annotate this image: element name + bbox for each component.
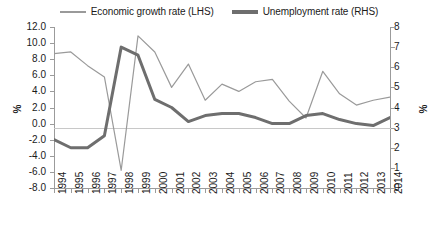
x-axis-tick-mark [289, 189, 290, 193]
x-axis-tick-mark [256, 189, 257, 193]
y-axis-left-tick-label: -8.0 [12, 183, 46, 193]
y-axis-right-tick-label: 2 [394, 143, 414, 153]
y-axis-right-tick-label: 5 [394, 82, 414, 92]
y-axis-right-tick-label: 6 [394, 62, 414, 72]
x-axis-tick-mark [340, 189, 341, 193]
x-axis-tick-label: 2014 [394, 160, 404, 194]
x-axis-tick-mark [222, 189, 223, 193]
x-axis-tick-mark [54, 189, 55, 193]
legend-entry-unemployment-rate: Unemployment rate (RHS) [232, 6, 379, 17]
legend-label-unemployment-rate: Unemployment rate (RHS) [263, 6, 379, 17]
x-axis-tick-mark [205, 189, 206, 193]
y-axis-left-tick-label: 12.0 [12, 22, 46, 32]
y-axis-right-tick-mark [391, 87, 395, 88]
x-axis-tick-mark [373, 189, 374, 193]
x-axis-tick-mark [356, 189, 357, 193]
series-line-unemployment-rate [54, 47, 390, 148]
chart-legend: Economic growth rate (LHS) Unemployment … [0, 6, 438, 17]
x-axis-tick-mark [88, 189, 89, 193]
legend-swatch-line-icon [232, 10, 258, 14]
x-axis-tick-mark [188, 189, 189, 193]
x-axis-tick-mark [323, 189, 324, 193]
plot-area [54, 27, 390, 188]
y-axis-left-tick-label: 6.0 [12, 70, 46, 80]
x-axis-tick-mark [138, 189, 139, 193]
y-axis-right-tick-label: 8 [394, 22, 414, 32]
x-axis-tick-mark [306, 189, 307, 193]
legend-swatch-line-icon [60, 11, 86, 13]
y-axis-right-tick-mark [391, 128, 395, 129]
y-axis-right-tick-label: 7 [394, 42, 414, 52]
y-axis-right-tick-label: 3 [394, 123, 414, 133]
y-axis-left-tick-label: 8.0 [12, 54, 46, 64]
y-axis-right-tick-mark [391, 67, 395, 68]
economic-indicators-chart: Economic growth rate (LHS) Unemployment … [0, 0, 438, 236]
y-axis-left-tick-label: 2.0 [12, 103, 46, 113]
y-axis-right-tick-mark [391, 27, 395, 28]
legend-entry-economic-growth-rate: Economic growth rate (LHS) [60, 6, 214, 17]
y-axis-left-tick-label: 4.0 [12, 86, 46, 96]
y-axis-left-tick-label: 10.0 [12, 38, 46, 48]
x-axis-tick-mark [104, 189, 105, 193]
x-axis-tick-mark [71, 189, 72, 193]
y-axis-right-tick-mark [391, 47, 395, 48]
y-axis-right-tick-label: 4 [394, 103, 414, 113]
y-axis-right-tick-mark [391, 108, 395, 109]
y-axis-right-unit-label: % [419, 103, 429, 115]
x-axis-tick-mark [272, 189, 273, 193]
y-axis-left-tick-label: 0.0 [12, 119, 46, 129]
y-axis-left-tick-label: -4.0 [12, 151, 46, 161]
legend-label-economic-growth-rate: Economic growth rate (LHS) [91, 6, 214, 17]
series-line-economic-growth-rate [54, 36, 390, 170]
x-axis-tick-mark [121, 189, 122, 193]
y-axis-left-tick-label: -2.0 [12, 135, 46, 145]
x-axis-tick-mark [390, 189, 391, 193]
y-axis-left-tick-label: -6.0 [12, 167, 46, 177]
x-axis-tick-mark [172, 189, 173, 193]
x-axis-tick-mark [239, 189, 240, 193]
y-axis-right-tick-mark [391, 148, 395, 149]
series-lines [54, 27, 390, 188]
x-axis-tick-mark [155, 189, 156, 193]
